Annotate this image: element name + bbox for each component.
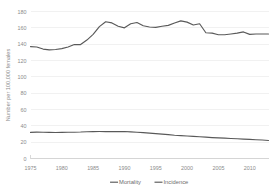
legend-label-incidence: Incidence	[164, 179, 189, 185]
y-tick-label-180: 180	[18, 9, 27, 15]
y-tick-label-160: 160	[18, 25, 27, 31]
x-tick-label-1990: 1990	[118, 165, 130, 171]
y-tick-label-60: 60	[21, 107, 27, 113]
y-tick-label-0: 0	[24, 156, 27, 162]
x-tick-label-2010: 2010	[244, 165, 256, 171]
legend: MortalityIncidence	[110, 179, 188, 185]
x-tick-label-1985: 1985	[87, 165, 99, 171]
y-axis-title-text: Number per 100,000 females	[5, 49, 11, 122]
chart-canvas: 020406080100120140160180 197519801985199…	[0, 0, 275, 192]
y-tick-label-120: 120	[18, 58, 27, 64]
legend-label-mortality: Mortality	[119, 179, 141, 185]
data-series-group	[31, 21, 269, 141]
y-axis-title: Number per 100,000 females	[5, 49, 11, 122]
line-chart: 020406080100120140160180 197519801985199…	[0, 0, 275, 192]
x-tick-label-1975: 1975	[25, 165, 37, 171]
x-tick-label-1980: 1980	[56, 165, 68, 171]
x-tick-label-1995: 1995	[150, 165, 162, 171]
y-tick-label-80: 80	[21, 90, 27, 96]
y-tick-label-20: 20	[21, 139, 27, 145]
x-axis-line-group	[31, 155, 269, 159]
y-tick-label-140: 140	[18, 41, 27, 47]
y-axis-tick-labels: 020406080100120140160180	[18, 9, 27, 162]
x-axis-tick-labels: 19751980198519901995200020052010	[25, 165, 256, 171]
y-tick-label-40: 40	[21, 123, 27, 129]
series-line-mortality	[31, 132, 269, 141]
series-line-incidence	[31, 21, 269, 50]
x-tick-label-2005: 2005	[212, 165, 224, 171]
x-tick-label-2000: 2000	[181, 165, 193, 171]
y-tick-label-100: 100	[18, 74, 27, 80]
